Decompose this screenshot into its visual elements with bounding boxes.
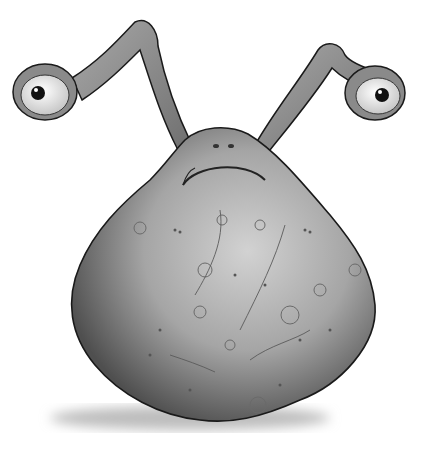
right-eye	[345, 66, 405, 120]
nostril-left	[213, 144, 219, 148]
nostril-right	[228, 144, 234, 148]
alien-body	[72, 128, 376, 421]
left-eye-stalk	[72, 21, 192, 150]
right-pupil	[375, 88, 389, 102]
left-eye	[13, 64, 77, 120]
alien-illustration	[0, 0, 426, 459]
left-pupil	[31, 86, 45, 100]
